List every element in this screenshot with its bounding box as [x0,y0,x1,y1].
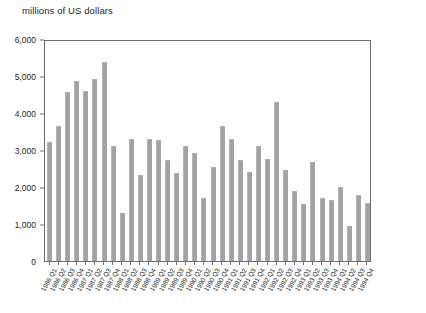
bar [229,139,234,261]
bar [192,153,197,261]
x-tick-mark [203,262,204,265]
x-tick-mark [339,262,340,265]
x-tick-mark [139,262,140,265]
bar [256,146,261,261]
bar [120,213,125,261]
x-tick-mark [330,262,331,265]
bar [238,160,243,261]
x-tick-mark [121,262,122,265]
bar-chart-figure: millions of US dollars 01,0002,0003,0004… [0,0,426,313]
bar [74,81,79,261]
x-tick-mark [294,262,295,265]
x-axis: 1986 Q11986 Q21986 Q31986 Q41987 Q11987 … [44,262,371,313]
x-tick-mark [303,262,304,265]
x-tick-mark [248,262,249,265]
y-tick-label: 3,000 [15,146,36,156]
x-tick-mark [148,262,149,265]
bar [220,126,225,261]
bar [138,175,143,261]
x-tick-mark [158,262,159,265]
x-tick-mark [85,262,86,265]
bar [156,140,161,261]
y-axis: 01,0002,0003,0004,0005,0006,000 [0,34,44,268]
bar [174,173,179,261]
bar [347,226,352,261]
x-tick-mark [176,262,177,265]
bar [47,142,52,261]
x-tick-mark [112,262,113,265]
bar [310,162,315,261]
x-tick-mark [348,262,349,265]
bars-layer [45,41,370,261]
bar [301,204,306,261]
x-tick-mark [276,262,277,265]
bar [365,203,370,261]
bar [320,198,325,261]
bar [338,187,343,261]
x-tick-mark [312,262,313,265]
x-tick-mark [357,262,358,265]
y-tick-label: 1,000 [15,220,36,230]
y-tick-label: 2,000 [15,183,36,193]
bar [292,191,297,261]
x-tick-mark [103,262,104,265]
bar [356,195,361,261]
x-tick-mark [58,262,59,265]
x-tick-mark [239,262,240,265]
y-tick-label: 5,000 [15,72,36,82]
bar [102,62,107,261]
bar [265,159,270,261]
x-tick-mark [49,262,50,265]
bar [129,139,134,261]
x-tick-mark [285,262,286,265]
bar [65,92,70,261]
bar [329,200,334,261]
y-tick-label: 6,000 [15,35,36,45]
x-tick-mark [130,262,131,265]
bar [111,146,116,261]
x-tick-mark [230,262,231,265]
bar [56,126,61,261]
bar [274,102,279,261]
bar [201,198,206,261]
x-tick-mark [267,262,268,265]
bar [165,160,170,261]
x-tick-mark [221,262,222,265]
y-tick-label: 4,000 [15,109,36,119]
x-tick-mark [67,262,68,265]
x-tick-mark [94,262,95,265]
bar [92,79,97,261]
bar [211,167,216,261]
bar [147,139,152,261]
chart-title: millions of US dollars [22,5,113,16]
x-tick-mark [167,262,168,265]
plot-area [44,40,371,262]
bar [247,172,252,261]
x-tick-mark [366,262,367,265]
x-tick-mark [194,262,195,265]
bar [283,170,288,261]
x-tick-mark [212,262,213,265]
bar [83,91,88,261]
x-tick-mark [321,262,322,265]
y-tick-label: 0 [31,257,36,267]
x-tick-mark [257,262,258,265]
bar [183,146,188,261]
x-tick-mark [76,262,77,265]
x-tick-mark [185,262,186,265]
